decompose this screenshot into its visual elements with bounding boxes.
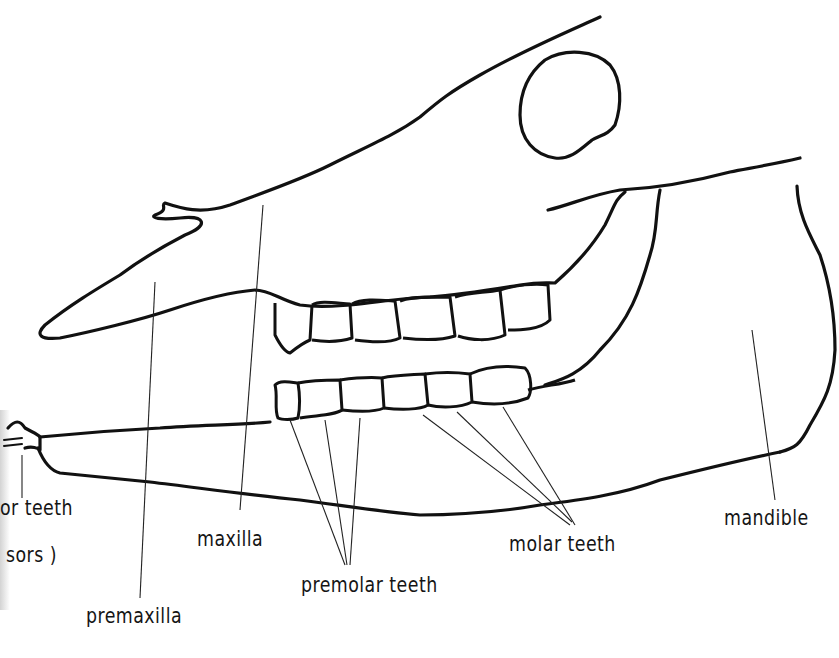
label-premolar-teeth: premolar teeth xyxy=(301,573,438,597)
label-mandible: mandible xyxy=(724,506,809,530)
leader-premaxilla xyxy=(140,282,155,598)
skull-diagram xyxy=(0,0,839,658)
leader-premolar-3 xyxy=(350,418,360,565)
label-premaxilla: premaxilla xyxy=(86,604,182,628)
upper-teeth-row xyxy=(275,284,550,353)
ramus-front-edge xyxy=(545,190,660,385)
leader-premolar-2 xyxy=(325,420,347,565)
mandible-diastema xyxy=(40,422,270,437)
label-incisors-paren: sors ) xyxy=(6,543,57,567)
eye-orbit xyxy=(520,52,620,158)
leader-maxilla xyxy=(240,205,263,510)
label-incisor-teeth: or teeth xyxy=(0,496,73,520)
mandible-lower-border xyxy=(38,448,780,515)
leader-molar-2 xyxy=(457,412,572,522)
leader-mandible xyxy=(752,330,775,500)
label-maxilla: maxilla xyxy=(197,527,263,551)
lower-teeth-row xyxy=(275,367,575,420)
zygomatic-arch xyxy=(548,158,800,210)
leader-molar-1 xyxy=(423,415,570,525)
leader-premolar-1 xyxy=(290,420,345,565)
label-molar-teeth: molar teeth xyxy=(509,532,616,556)
mandible-rear-edge xyxy=(780,186,835,452)
